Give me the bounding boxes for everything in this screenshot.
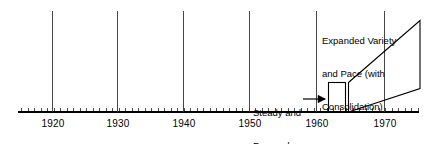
- callout-expanded-line-2: and Pace (with: [322, 68, 422, 79]
- timeline-diagram: 1920 1930 1940 1950 1960 1970 Steady and…: [0, 0, 433, 144]
- callout-steady-line-2: Focused: [253, 140, 313, 144]
- callout-steady-line-1: Steady and: [253, 107, 313, 118]
- axis-label-1920: 1920: [33, 118, 73, 129]
- callout-expanded-variety: Expanded Variety and Pace (with Consolid…: [322, 13, 422, 134]
- callout-steady-and-focused: Steady and Focused: [253, 85, 313, 144]
- callout-expanded-line-1: Expanded Variety: [322, 35, 422, 46]
- axis-label-1930: 1930: [98, 118, 138, 129]
- axis-label-1940: 1940: [164, 118, 204, 129]
- callout-expanded-line-3: Consolidation): [322, 101, 422, 112]
